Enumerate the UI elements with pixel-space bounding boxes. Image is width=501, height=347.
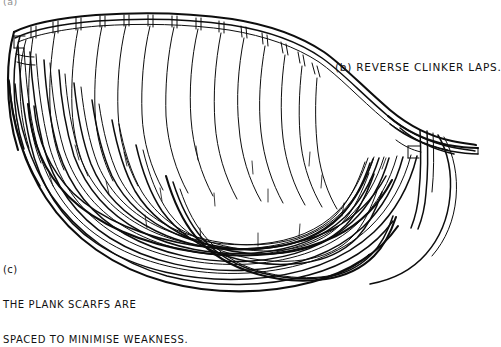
caption-panel-c-tag: (c) (3, 264, 188, 276)
label-panel-b: (b) REVERSE CLINKER LAPS. (335, 61, 501, 73)
cropped-top-label-fragment: (a) (3, 0, 18, 7)
caption-panel-c-line1: THE PLANK SCARFS ARE (3, 299, 188, 311)
caption-panel-c: (c) THE PLANK SCARFS ARE SPACED TO MINIM… (3, 240, 188, 347)
interior-frames (29, 25, 337, 209)
stem-and-breasthook (370, 116, 478, 284)
caption-panel-c-line2: SPACED TO MINIMISE WEAKNESS. (3, 334, 188, 346)
frame-heads (31, 15, 320, 77)
